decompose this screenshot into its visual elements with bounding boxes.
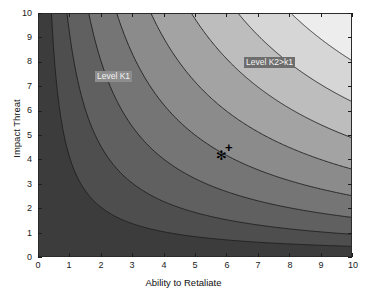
x-tick-mark [289, 13, 290, 17]
contour-figure: 10 9 8 7 6 5 4 3 2 1 0 0 1 2 3 4 5 6 7 8… [0, 0, 367, 299]
y-tick-label: 10 [8, 9, 32, 18]
y-tick-mark [38, 13, 42, 14]
y-tick-mark [348, 135, 352, 136]
y-tick-mark [38, 111, 42, 112]
x-tick-mark [195, 13, 196, 17]
x-axis-label: Ability to Retaliate [0, 277, 367, 288]
x-tick-mark [352, 13, 353, 17]
x-tick-mark [226, 253, 227, 257]
y-tick-mark [348, 257, 352, 258]
y-tick-mark [38, 37, 42, 38]
y-axis-label: Impact Threat [11, 64, 22, 194]
y-tick-mark [348, 37, 352, 38]
y-tick-mark [38, 135, 42, 136]
x-tick-mark [352, 253, 353, 257]
x-tick-mark [132, 253, 133, 257]
x-tick-mark [289, 253, 290, 257]
level-k2-label: Level K2>k1 [244, 57, 295, 68]
x-tick-mark [195, 253, 196, 257]
x-tick-label: 10 [344, 261, 362, 270]
plus-marker: + [225, 141, 233, 154]
x-tick-label: 1 [60, 261, 78, 270]
x-tick-label: 4 [155, 261, 173, 270]
y-tick-mark [38, 208, 42, 209]
x-tick-mark [132, 13, 133, 17]
y-tick-mark [38, 257, 42, 258]
x-tick-label: 5 [186, 261, 204, 270]
x-tick-mark [69, 13, 70, 17]
y-tick-mark [38, 159, 42, 160]
x-tick-label: 3 [123, 261, 141, 270]
x-tick-label: 9 [312, 261, 330, 270]
x-tick-label: 7 [249, 261, 267, 270]
level-k1-label: Level K1 [95, 71, 132, 82]
x-tick-mark [258, 253, 259, 257]
plot-area: Level K1 Level K2>k1 ✻ + [38, 13, 352, 257]
y-tick-mark [38, 62, 42, 63]
x-tick-mark [69, 253, 70, 257]
x-tick-label: 0 [29, 261, 47, 270]
contour-plot [39, 14, 351, 256]
y-tick-mark [38, 184, 42, 185]
y-tick-mark [38, 86, 42, 87]
y-tick-mark [38, 233, 42, 234]
y-tick-mark [348, 184, 352, 185]
y-tick-mark [348, 159, 352, 160]
x-tick-label: 8 [281, 261, 299, 270]
y-tick-mark [348, 111, 352, 112]
x-tick-mark [101, 13, 102, 17]
y-tick-label: 2 [8, 204, 32, 213]
x-tick-mark [164, 13, 165, 17]
x-tick-mark [164, 253, 165, 257]
x-tick-label: 6 [218, 261, 236, 270]
x-tick-mark [321, 253, 322, 257]
x-tick-mark [258, 13, 259, 17]
x-tick-mark [226, 13, 227, 17]
y-tick-label: 9 [8, 33, 32, 42]
y-tick-mark [348, 86, 352, 87]
y-tick-mark [348, 62, 352, 63]
x-tick-mark [101, 253, 102, 257]
y-tick-label: 1 [8, 229, 32, 238]
x-tick-mark [321, 13, 322, 17]
x-tick-label: 2 [92, 261, 110, 270]
y-tick-mark [348, 208, 352, 209]
y-tick-mark [348, 233, 352, 234]
